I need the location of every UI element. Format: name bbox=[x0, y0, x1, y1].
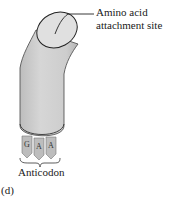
anticodon-label: Anticodon bbox=[18, 166, 64, 179]
anticodon-base-1: G bbox=[22, 140, 32, 149]
anticodon-base-3: A bbox=[46, 141, 56, 150]
anticodon-base-2: A bbox=[34, 142, 44, 151]
attachment-site-label-line2: attachment site bbox=[96, 19, 162, 32]
attachment-site-label-line1: Amino acid bbox=[96, 6, 162, 19]
attachment-site-label: Amino acid attachment site bbox=[96, 6, 162, 32]
panel-label: (d) bbox=[1, 184, 14, 197]
